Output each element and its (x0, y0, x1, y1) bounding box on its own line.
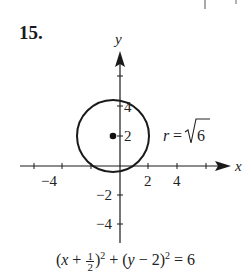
center-point (110, 133, 117, 140)
radius-label: r = 6 (163, 119, 210, 144)
y-tick-label-2: 2 (124, 128, 132, 144)
x-tick-label-4: 4 (173, 173, 181, 189)
y-axis-label: y (113, 31, 122, 47)
y-tick-label-4: 4 (124, 99, 132, 115)
y-tick-label-neg4: −4 (96, 216, 112, 232)
x-tick-label-neg4: −4 (41, 173, 57, 189)
x-tick-label-2: 2 (144, 173, 152, 189)
svg-text:r: r (163, 127, 170, 144)
svg-text:=: = (173, 127, 182, 144)
top-fragment (205, 0, 236, 9)
y-tick-label-neg2: −2 (96, 187, 112, 203)
x-axis-label: x (234, 158, 242, 174)
svg-text:6: 6 (197, 127, 205, 144)
y-axis (115, 51, 125, 243)
circle-graph: y x −4 2 4 4 2 −2 −4 r = 6 (0, 0, 251, 273)
circle-equation: (x + 12)2 + (y − 2)2 = 6 (0, 250, 251, 272)
